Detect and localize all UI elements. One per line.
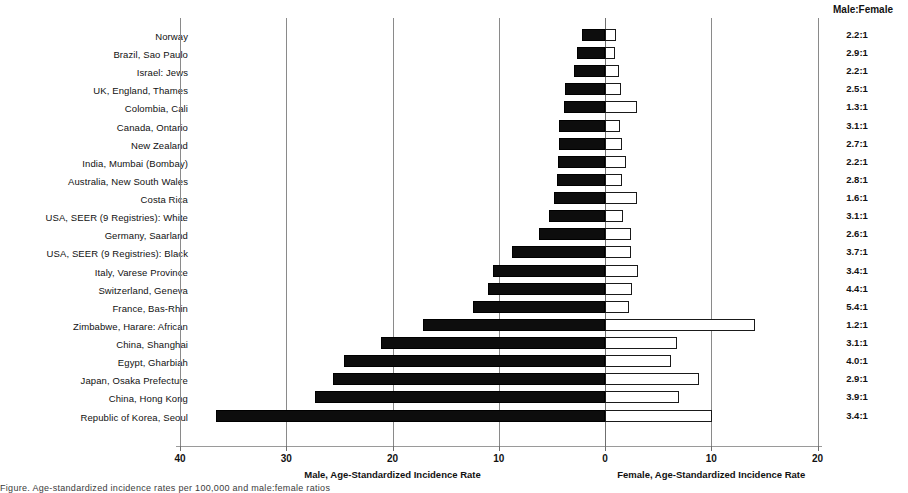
- ratio-value: 2.2:1: [820, 66, 894, 76]
- ratio-value: 1.6:1: [820, 193, 894, 203]
- ratio-value: 3.1:1: [820, 338, 894, 348]
- bar-female: [605, 283, 632, 295]
- ratio-value: 5.4:1: [820, 302, 894, 312]
- ratio-value: 3.4:1: [820, 266, 894, 276]
- bar-male: [493, 265, 605, 277]
- ratio-value: 2.7:1: [820, 139, 894, 149]
- category-label: India, Mumbai (Bombay): [82, 159, 188, 169]
- category-label: China, Hong Kong: [109, 394, 188, 404]
- bar-male: [488, 283, 605, 295]
- bar-female: [605, 174, 622, 186]
- bar-male: [473, 301, 605, 313]
- bar-male: [554, 192, 605, 204]
- ratio-value: 2.8:1: [820, 175, 894, 185]
- category-label: Republic of Korea, Seoul: [81, 413, 189, 423]
- bar-female: [605, 47, 615, 59]
- bar-female: [605, 246, 631, 258]
- ratio-value: 2.9:1: [820, 48, 894, 58]
- bar-male: [559, 138, 605, 150]
- bar-male: [565, 83, 605, 95]
- bar-male: [333, 373, 605, 385]
- category-label: Egypt, Gharbiah: [118, 358, 188, 368]
- gridline-1: [286, 18, 287, 446]
- ratio-value: 2.2:1: [820, 157, 894, 167]
- category-label: China, Shanghai: [116, 340, 188, 350]
- gridline-5: [711, 18, 712, 446]
- bar-female: [605, 101, 637, 113]
- bar-female: [605, 228, 631, 240]
- ratio-value: 2.9:1: [820, 374, 894, 384]
- x-axis-title-male: Male, Age-Standardized Incidence Rate: [304, 469, 481, 480]
- bar-female: [605, 156, 626, 168]
- ratio-value: 4.4:1: [820, 284, 894, 294]
- x-tick-3: [499, 446, 500, 451]
- category-label: Brazil, Sao Paulo: [113, 50, 188, 60]
- bar-male: [557, 174, 605, 186]
- x-tick-0: [180, 446, 181, 451]
- figure-caption: Figure. Age-standardized incidence rates…: [0, 483, 908, 493]
- x-tick-label-5: 10: [706, 453, 717, 464]
- ratio-value: 2.5:1: [820, 84, 894, 94]
- bar-female: [605, 29, 616, 41]
- bar-female: [605, 210, 623, 222]
- category-label: Italy, Varese Province: [95, 268, 188, 278]
- x-tick-label-2: 20: [387, 453, 398, 464]
- x-axis-title-female: Female, Age-Standardized Incidence Rate: [617, 469, 805, 480]
- bar-female: [605, 265, 638, 277]
- bar-female: [605, 120, 620, 132]
- x-tick-label-1: 30: [281, 453, 292, 464]
- x-tick-5: [711, 446, 712, 451]
- bar-female: [605, 319, 755, 331]
- category-label: UK, England, Thames: [93, 86, 188, 96]
- bar-female: [605, 337, 677, 349]
- ratio-value: 4.0:1: [820, 356, 894, 366]
- bar-male: [216, 410, 605, 422]
- x-tick-label-3: 10: [493, 453, 504, 464]
- x-tick-1: [286, 446, 287, 451]
- category-label: USA, SEER (9 Registries): White: [46, 213, 188, 223]
- ratio-value: 1.2:1: [820, 320, 894, 330]
- bar-male: [423, 319, 605, 331]
- x-tick-2: [393, 446, 394, 451]
- bar-female: [605, 192, 637, 204]
- bar-female: [605, 410, 712, 422]
- x-tick-label-0: 40: [174, 453, 185, 464]
- x-tick-4: [605, 446, 606, 451]
- category-label: France, Bas-Rhin: [112, 304, 188, 314]
- bar-female: [605, 83, 621, 95]
- bar-male: [344, 355, 605, 367]
- category-label: Japan, Osaka Prefecture: [81, 376, 188, 386]
- bar-male: [559, 120, 605, 132]
- bar-female: [605, 373, 699, 385]
- bar-female: [605, 301, 629, 313]
- category-label: Australia, New South Wales: [68, 177, 188, 187]
- bar-male: [549, 210, 605, 222]
- ratio-value: 2.6:1: [820, 229, 894, 239]
- ratio-value: 1.3:1: [820, 102, 894, 112]
- bar-female: [605, 355, 671, 367]
- category-label: Germany, Saarland: [105, 231, 188, 241]
- category-label: Zimbabwe, Harare: African: [73, 322, 188, 332]
- plot-area: [180, 18, 818, 446]
- gridline-0: [180, 18, 181, 446]
- bar-female: [605, 391, 679, 403]
- ratio-value: 2.2:1: [820, 30, 894, 40]
- category-label: Colombia, Cali: [125, 104, 188, 114]
- bar-male: [558, 156, 605, 168]
- bar-male: [381, 337, 605, 349]
- ratio-value: 3.1:1: [820, 211, 894, 221]
- bar-male: [539, 228, 605, 240]
- category-label: Switzerland, Geneva: [98, 286, 188, 296]
- bar-female: [605, 138, 622, 150]
- bar-female: [605, 65, 619, 77]
- bar-male: [577, 47, 605, 59]
- ratio-value: 3.9:1: [820, 392, 894, 402]
- bar-male: [315, 391, 605, 403]
- bar-male: [564, 101, 605, 113]
- ratio-value: 3.4:1: [820, 411, 894, 421]
- ratio-value: 3.1:1: [820, 121, 894, 131]
- bar-male: [582, 29, 605, 41]
- x-tick-label-6: 20: [812, 453, 823, 464]
- bar-male: [574, 65, 605, 77]
